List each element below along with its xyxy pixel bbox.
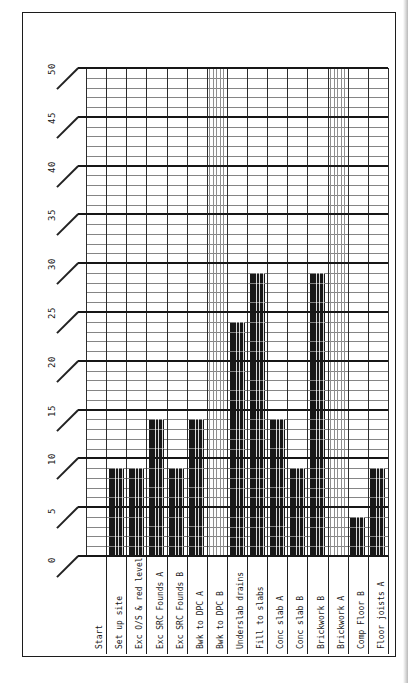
task-label-exc-o-s-red-level: Exc O/S & red level [135,557,144,649]
task-label-conc-slab-b: Conc slab B [296,596,305,649]
bar-floor-joists-a [370,468,385,556]
label-separator [287,556,288,654]
axis-tick-label: 40 [47,161,57,173]
bar-comp-floor-b [350,517,365,556]
grid-major-line [78,262,388,264]
grid-major-line [78,506,388,508]
task-label-floor-joists-a: Floor joists A [377,582,386,649]
label-separator [167,556,168,654]
task-label-fill-to-slabs: Fill to slabs [256,586,265,649]
task-label-brickwork-a: Brickwork A [337,596,346,649]
label-separator [247,556,248,654]
label-separator [207,556,208,654]
task-label-exc-src-founds-a: Exc SRC Founds A [156,572,165,649]
task-label-bwk-to-dpc-b: Bwk to DPC B [216,591,225,649]
axis-tick-label: 0 [47,557,57,563]
label-separator [388,556,389,654]
label-separator [227,556,228,654]
grid-major-line [78,409,388,411]
grid-vertical-line [388,68,389,556]
axis-tick-label: 15 [47,405,57,417]
grid-major-line [78,311,388,313]
bar-set-up-site [109,468,124,556]
axis-tick-label: 25 [47,307,57,319]
bar-underslab-drains [230,322,245,556]
grid-major-line [78,360,388,362]
bar-exc-src-founds-a [149,419,164,556]
bar-fill-to-slabs [250,273,265,556]
label-separator [328,556,329,654]
bar-bwk-to-dpc-a [189,419,204,556]
axis-tick-label: 30 [47,258,57,270]
bar-exc-o-s-red-level [129,468,144,556]
bar-conc-slab-a [270,419,285,556]
grid-major-line [78,213,388,215]
grid-major-line [78,555,388,557]
label-separator [106,556,107,654]
axis-tick-label: 50 [47,63,57,75]
task-label-brickwork-b: Brickwork B [317,596,326,649]
label-separator [267,556,268,654]
task-label-comp-floor-b: Comp Floor B [357,591,366,649]
label-separator [146,556,147,654]
bar-exc-src-founds-b [169,468,184,556]
label-separator [187,556,188,654]
grid-major-line [78,457,388,459]
label-separator [307,556,308,654]
grid-major-line [78,116,388,118]
task-label-conc-slab-a: Conc slab A [276,596,285,649]
axis-tick-label: 5 [47,508,57,514]
axis-tick-label: 10 [47,454,57,466]
scan-edge-shadow [403,0,408,683]
bar-conc-slab-b [290,468,305,556]
label-separator [126,556,127,654]
axis-tick-label: 45 [47,112,57,124]
grid-major-line [78,67,388,69]
axis-tick-label: 35 [47,210,57,222]
task-label-set-up-site: Set up site [115,596,124,649]
grid-major-line [78,165,388,167]
label-separator [368,556,369,654]
axis-tick-label: 20 [47,356,57,368]
bar-brickwork-b [310,273,325,556]
task-label-underslab-drains: Underslab drains [236,572,245,649]
task-label-bwk-to-dpc-a: Bwk to DPC A [196,591,205,649]
task-label-start: Start [95,625,104,649]
label-separator [348,556,349,654]
task-label-exc-src-founds-b: Exc SRC Founds B [176,572,185,649]
